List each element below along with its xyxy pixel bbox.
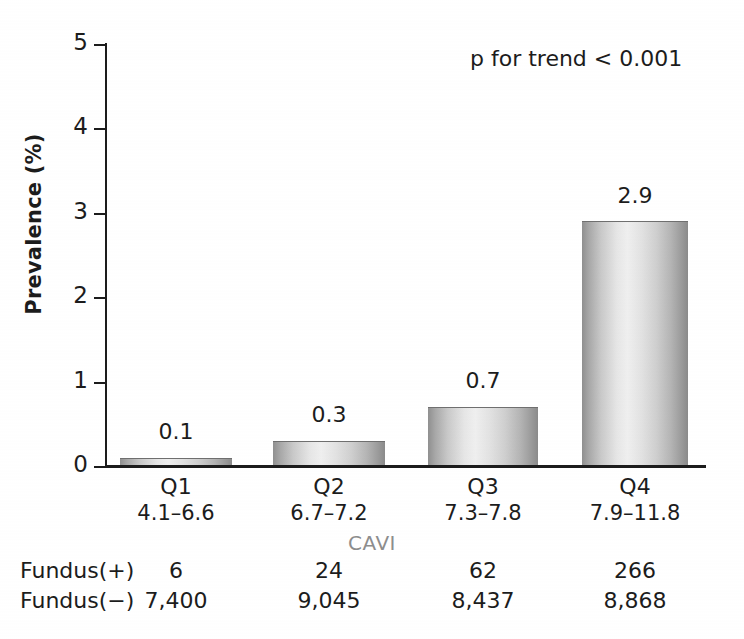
- y-tick-label: 0: [48, 453, 88, 476]
- y-tick-label: 2: [48, 284, 88, 307]
- bar-value-q3: 0.7: [428, 370, 538, 392]
- x-tick-label-category: Q3: [423, 474, 543, 500]
- bar-value-q1: 0.1: [120, 421, 232, 443]
- counts-table: Fundus(+) 6 24 62 266 Fundus(−) 7,400 9,…: [0, 556, 744, 616]
- bar-value-q4: 2.9: [582, 185, 688, 207]
- table-cell: 8,437: [423, 586, 543, 616]
- y-tick-mark: [94, 382, 106, 384]
- x-tick-group-q4: Q4 7.9–11.8: [575, 474, 695, 526]
- y-tick-label: 3: [48, 200, 88, 223]
- p-for-trend-annotation: p for trend < 0.001: [470, 46, 682, 71]
- bar-q3: [428, 407, 538, 466]
- y-tick-label: 4: [48, 115, 88, 138]
- x-tick-label-category: Q2: [269, 474, 389, 500]
- x-tick-label-range: 6.7–7.2: [269, 500, 389, 526]
- table-cell: 9,045: [269, 586, 389, 616]
- x-tick-group-q1: Q1 4.1–6.6: [116, 474, 236, 526]
- y-tick-mark: [94, 44, 106, 46]
- x-tick-label-range: 4.1–6.6: [116, 500, 236, 526]
- table-cell: 8,868: [575, 586, 695, 616]
- bar-q2: [273, 441, 385, 466]
- y-tick-mark: [94, 213, 106, 215]
- table-cell: 266: [575, 556, 695, 586]
- y-axis-line: [105, 43, 107, 467]
- y-tick-mark: [94, 297, 106, 299]
- x-tick-label-category: Q4: [575, 474, 695, 500]
- bar-q4: [582, 221, 688, 466]
- table-cell: 24: [269, 556, 389, 586]
- x-tick-group-q2: Q2 6.7–7.2: [269, 474, 389, 526]
- table-cell: 7,400: [116, 586, 236, 616]
- prevalence-by-cavi-quartile-chart: Prevalence (%) 5 4 3 2 1 0 p for trend <…: [0, 0, 744, 639]
- x-tick-label-category: Q1: [116, 474, 236, 500]
- x-tick-label-range: 7.3–7.8: [423, 500, 543, 526]
- table-cell: 62: [423, 556, 543, 586]
- table-row-fundus-positive: Fundus(+) 6 24 62 266: [0, 556, 744, 586]
- table-row-fundus-negative: Fundus(−) 7,400 9,045 8,437 8,868: [0, 586, 744, 616]
- y-axis-title: Prevalence (%): [22, 94, 46, 354]
- x-tick-group-q3: Q3 7.3–7.8: [423, 474, 543, 526]
- table-cell: 6: [116, 556, 236, 586]
- x-tick-label-range: 7.9–11.8: [575, 500, 695, 526]
- y-tick-label: 5: [48, 31, 88, 54]
- y-tick-mark: [94, 128, 106, 130]
- x-axis-line: [105, 465, 706, 468]
- x-axis-title: CAVI: [0, 531, 744, 555]
- y-tick-label: 1: [48, 369, 88, 392]
- bar-value-q2: 0.3: [273, 404, 385, 426]
